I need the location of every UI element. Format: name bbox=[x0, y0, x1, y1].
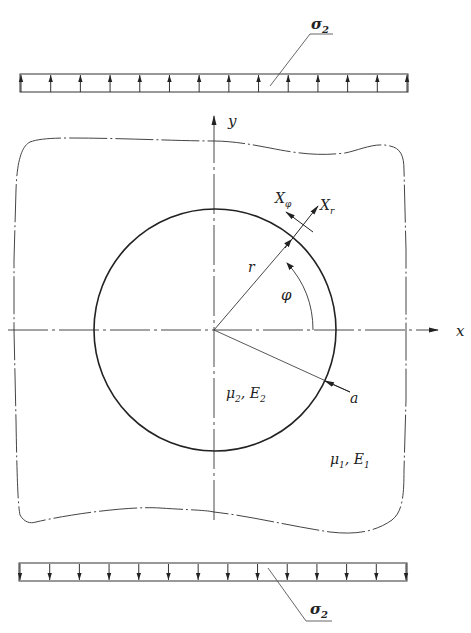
matrix-material-label: μ1, E1 bbox=[330, 451, 370, 470]
top-load-bar bbox=[19, 74, 409, 92]
arrowhead-icon bbox=[48, 75, 52, 82]
bottom-load-bar bbox=[18, 563, 408, 581]
arrowhead-icon bbox=[227, 75, 231, 82]
arrowhead-icon bbox=[18, 573, 22, 580]
arrowhead-icon bbox=[167, 75, 171, 82]
arrowhead-icon bbox=[138, 75, 142, 82]
arrowhead-icon bbox=[47, 573, 51, 580]
radius-a-label: a bbox=[350, 390, 358, 406]
arrowhead-icon bbox=[404, 573, 408, 580]
arrowhead-icon bbox=[107, 573, 111, 580]
diagram-canvas: σ2 x y r φ Xr Xφ a μ2, E2 μ1, E1 σ2 bbox=[0, 0, 471, 633]
plate-boundary bbox=[14, 138, 406, 533]
arrowhead-icon bbox=[344, 573, 348, 580]
diagram-svg: σ2 x y r φ Xr Xφ a μ2, E2 μ1, E1 σ2 bbox=[0, 0, 471, 633]
angle-label: φ bbox=[281, 286, 292, 304]
bottom-load-label: σ2 bbox=[310, 600, 328, 620]
arrowhead-icon bbox=[285, 573, 289, 580]
arrowhead-icon bbox=[166, 573, 170, 580]
radius-a-arrow bbox=[325, 381, 350, 392]
arrowhead-icon bbox=[226, 573, 230, 580]
x-axis-label: x bbox=[456, 322, 465, 340]
inclusion-material-label: μ2, E2 bbox=[226, 385, 266, 404]
arrowhead-icon bbox=[77, 573, 81, 580]
arrowhead-icon bbox=[374, 573, 378, 580]
arrowhead-icon bbox=[78, 75, 82, 82]
arrowhead-icon bbox=[256, 75, 260, 82]
force-xr-label: Xr bbox=[319, 197, 335, 216]
arrowhead-icon bbox=[315, 573, 319, 580]
bottom-load-arrows bbox=[18, 564, 408, 580]
arrowhead-icon bbox=[196, 573, 200, 580]
arrowhead-icon bbox=[375, 75, 379, 82]
arrowhead-icon bbox=[405, 75, 409, 82]
arrowhead-icon bbox=[345, 75, 349, 82]
arrowhead-icon bbox=[137, 573, 141, 580]
arrowhead-icon bbox=[19, 75, 23, 82]
arrowhead-icon bbox=[108, 75, 112, 82]
radius-label: r bbox=[248, 259, 256, 275]
top-load-leader bbox=[270, 34, 333, 86]
top-load-label: σ2 bbox=[311, 15, 329, 35]
radius-r-line bbox=[214, 240, 291, 330]
top-load-arrows bbox=[19, 75, 409, 92]
arrowhead-icon bbox=[197, 75, 201, 82]
force-xr-arrow bbox=[285, 206, 318, 248]
arrowhead-icon bbox=[286, 75, 290, 82]
arrowhead-icon bbox=[255, 573, 259, 580]
y-axis-label: y bbox=[227, 112, 237, 130]
arrowhead-icon bbox=[316, 75, 320, 82]
force-xphi-label: Xφ bbox=[274, 190, 292, 209]
